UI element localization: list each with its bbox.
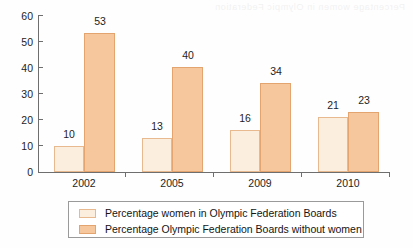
chart-root: Percentage women in Olympic Federation 6…	[0, 0, 413, 248]
legend-item-women[interactable]: Percentage women in Olympic Federation B…	[79, 205, 363, 221]
value-label-2009-without-women: 34	[256, 65, 296, 77]
bar-2005-women[interactable]	[142, 138, 172, 172]
bar-2009-without-women[interactable]	[260, 83, 291, 172]
chart-legend: Percentage women in Olympic Federation B…	[68, 201, 364, 238]
x-category-label-2009: 2009	[225, 177, 295, 189]
legend-swatch-icon-without-women	[79, 225, 96, 234]
x-category-label-2002: 2002	[49, 177, 119, 189]
legend-item-without-women[interactable]: Percentage Olympic Federation Boards wit…	[79, 221, 363, 237]
bar-2002-women[interactable]	[54, 146, 84, 172]
x-category-label-2005: 2005	[137, 177, 207, 189]
legend-label-women: Percentage women in Olympic Federation B…	[105, 207, 337, 219]
x-tick-mark-2	[213, 172, 214, 177]
bar-2010-women[interactable]	[318, 117, 348, 172]
value-label-2002-women: 10	[49, 128, 89, 140]
value-label-2009-women: 16	[225, 112, 265, 124]
legend-swatch-icon-women	[79, 209, 96, 218]
x-category-label-2010: 2010	[313, 177, 383, 189]
value-label-2005-without-women: 40	[168, 49, 208, 61]
value-label-2005-women: 13	[137, 120, 177, 132]
x-axis-line	[38, 172, 390, 173]
bar-2009-women[interactable]	[230, 130, 260, 172]
value-label-2002-without-women: 53	[80, 15, 120, 27]
bar-2010-without-women[interactable]	[348, 112, 379, 172]
x-tick-mark-4	[389, 172, 390, 177]
value-label-2010-without-women: 23	[344, 94, 384, 106]
x-tick-mark-3	[301, 172, 302, 177]
bar-series-container	[0, 0, 413, 172]
bar-2002-without-women[interactable]	[84, 33, 115, 172]
x-tick-mark-1	[125, 172, 126, 177]
legend-label-without-women: Percentage Olympic Federation Boards wit…	[105, 223, 362, 235]
plot-area: 60 50 40 30 20 10 0	[0, 0, 413, 200]
